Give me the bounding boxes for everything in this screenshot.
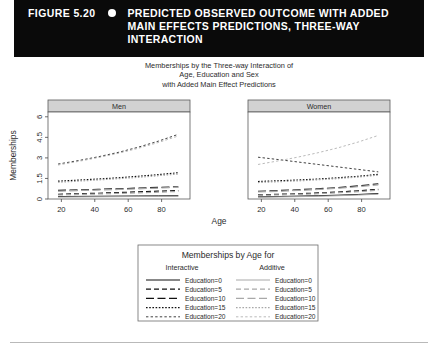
y-tick-label: 0	[35, 197, 44, 201]
panel-strip-label-women: Women	[307, 102, 332, 111]
x-tick-label: 40	[91, 205, 99, 214]
x-tick-label: 80	[157, 205, 165, 214]
figure-title-line-1: PREDICTED OBSERVED OUTCOME WITH ADDED	[127, 7, 388, 20]
legend-entry-label: Education=5	[275, 286, 312, 293]
legend-entry-label: Education=0	[185, 277, 222, 284]
legend-entry-label: Education=20	[185, 313, 226, 320]
circle-bullet-icon	[108, 9, 116, 17]
panel-strip-label-men: Men	[112, 102, 126, 111]
y-axis-title: Memberships	[8, 130, 18, 180]
x-tick-label: 20	[57, 205, 65, 214]
figure-title: PREDICTED OBSERVED OUTCOME WITH ADDED MA…	[127, 7, 388, 47]
legend-column-heading-interactive: Interactive	[165, 263, 198, 272]
x-tick-label: 20	[257, 205, 265, 214]
chart-title-line-2: Age, Education and Sex	[179, 70, 259, 79]
legend-entry-label: Education=10	[275, 295, 316, 302]
footer-divider-rule	[10, 342, 428, 343]
x-tick-label: 80	[357, 205, 365, 214]
chart-title-line-3: with Added Main Effect Predictions	[161, 80, 276, 89]
figure-title-line-3: INTERACTION	[127, 33, 388, 46]
trellis-line-chart: Memberships by the Three-way Interaction…	[0, 57, 438, 332]
legend-title: Memberships by Age for	[182, 250, 275, 260]
chart-legend: Memberships by Age forInteractiveEducati…	[138, 245, 318, 321]
y-tick-label: 1.5	[35, 173, 44, 184]
panel-plot-area-men	[48, 112, 190, 199]
chart-title-line-1: Memberships by the Three-way Interaction…	[145, 61, 294, 70]
legend-entry-label: Education=15	[275, 304, 316, 311]
figure-header-banner: FIGURE 5.20 PREDICTED OBSERVED OUTCOME W…	[14, 0, 424, 57]
legend-column-heading-additive: Additive	[259, 263, 285, 272]
figure-number: FIGURE 5.20	[28, 7, 95, 20]
legend-entry-label: Education=10	[185, 295, 226, 302]
figure-title-line-2: MAIN EFFECTS PREDICTIONS, THREE-WAY	[127, 20, 388, 33]
x-tick-label: 60	[324, 205, 332, 214]
y-tick-label: 3	[35, 156, 44, 160]
y-tick-label: 4.5	[35, 132, 44, 143]
x-tick-label: 40	[291, 205, 299, 214]
x-tick-label: 60	[124, 205, 132, 214]
panel-men: Men2040608001.534.56	[35, 100, 190, 214]
y-tick-label: 6	[35, 115, 44, 119]
panel-women: Women20406080	[248, 100, 390, 214]
legend-entry-label: Education=20	[275, 313, 316, 320]
chart-figure: Memberships by the Three-way Interaction…	[0, 57, 438, 332]
legend-entry-label: Education=5	[185, 286, 222, 293]
legend-entry-label: Education=0	[275, 277, 312, 284]
legend-entry-label: Education=15	[185, 304, 226, 311]
x-axis-title: Age	[212, 216, 227, 226]
